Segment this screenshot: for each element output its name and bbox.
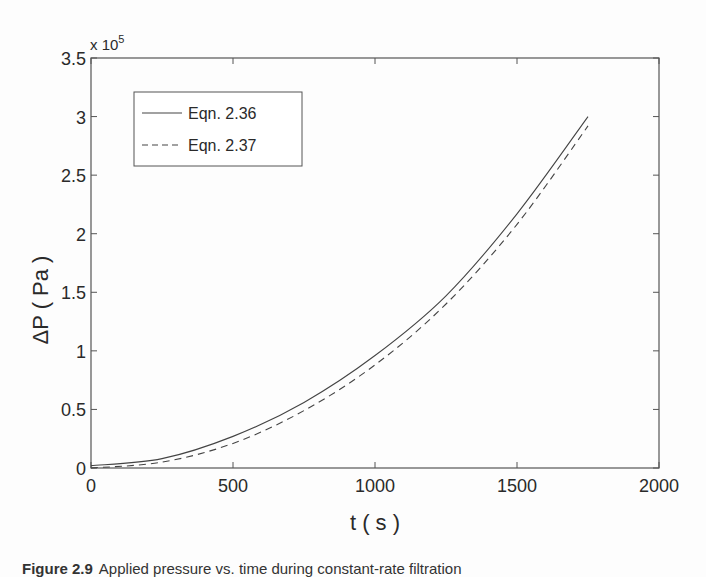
x-tick-label: 500 [218, 476, 248, 496]
y-tick-label: 3.5 [61, 49, 86, 69]
dashed-curve [91, 126, 588, 468]
caption-label: Figure 2.9 [22, 560, 93, 577]
caption-text: Applied pressure vs. time during constan… [99, 560, 462, 577]
y-tick-label: 3 [76, 108, 86, 128]
y-axis-label: ΔP ( Pa ) [28, 256, 53, 345]
y-tick-label: 1 [76, 342, 86, 362]
y-multiplier: x 105 [90, 33, 124, 53]
series-lines [91, 117, 588, 468]
y-tick-label: 1.5 [61, 283, 86, 303]
chart: 00.511.522.533.5 0500100015002000 x 105 … [0, 0, 706, 560]
legend: Eqn. 2.36 Eqn. 2.37 [134, 92, 302, 166]
legend-entry-2: Eqn. 2.37 [188, 137, 257, 154]
figure-caption: Figure 2.9Applied pressure vs. time duri… [22, 560, 462, 577]
x-tick-label: 2000 [639, 476, 679, 496]
y-tick-label: 0 [76, 459, 86, 479]
x-tick-label: 1000 [355, 476, 395, 496]
legend-entry-1: Eqn. 2.36 [188, 105, 257, 122]
y-tick-label: 0.5 [61, 400, 86, 420]
x-tick-label: 1500 [497, 476, 537, 496]
x-tick-label: 0 [86, 476, 96, 496]
x-axis-label: t ( s ) [350, 510, 400, 535]
y-tick-label: 2.5 [61, 166, 86, 186]
solid-curve [91, 117, 588, 466]
y-tick-label: 2 [76, 225, 86, 245]
